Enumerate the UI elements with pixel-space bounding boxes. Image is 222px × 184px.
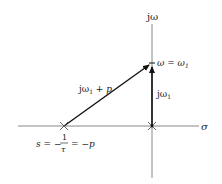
svg-text:= −p: = −p [71,139,95,149]
diagonal-vector-label: jω1 + p [78,84,112,95]
svg-text:s = −: s = − [36,139,61,149]
pole-label: s = − 1 τ = −p [36,133,95,154]
svg-text:τ: τ [61,145,66,154]
origin-dot [151,125,154,128]
sigma-axis-label: σ [201,121,209,132]
omega-point-label: ω = ω1 [157,58,189,69]
vertical-vector-label: jω1 [156,89,171,100]
s-plane-diagram: σ jω ω = ω1 jω1 + p jω1 s = − 1 τ = −p [0,0,222,184]
svg-text:1: 1 [62,133,67,142]
jomega-axis-label: jω [146,11,158,22]
vector-jw1-plus-p [64,65,149,126]
